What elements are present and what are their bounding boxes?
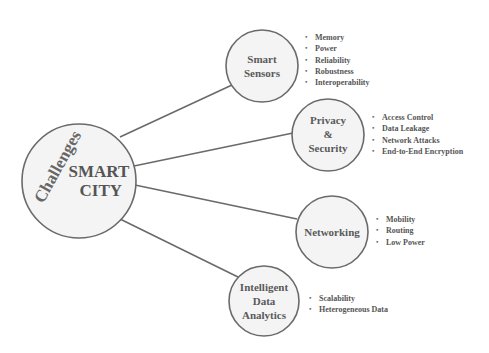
list-item: Heterogeneous Data — [309, 304, 388, 315]
node-label-line: Security — [292, 141, 364, 155]
node-label-networking: Networking — [295, 225, 369, 239]
smart-label: SMART — [68, 162, 130, 181]
smart-sensors-items: Memory Power Reliability Robustness Inte… — [305, 32, 370, 88]
list-item: Power — [305, 43, 370, 54]
node-label-line: Privacy — [292, 113, 364, 127]
node-label-intelligent-data-analytics: Intelligent Data Analytics — [228, 280, 300, 322]
list-item: Mobility — [376, 214, 425, 225]
node-label-line: Smart — [226, 52, 298, 66]
smart-city-challenges-diagram: Challenges SMART CITY Smart Sensors Memo… — [0, 0, 489, 353]
node-label-privacy-security: Privacy & Security — [292, 113, 364, 155]
node-label-line: Intelligent — [228, 280, 300, 294]
connector-networking — [135, 185, 297, 219]
intelligent-data-analytics-items: Scalability Heterogeneous Data — [309, 293, 388, 316]
list-item: End-to-End Encryption — [372, 146, 463, 157]
list-item: Interoperability — [305, 77, 370, 88]
connector-intelligent-data-analytics — [120, 219, 238, 277]
node-label-line: & — [292, 127, 364, 141]
node-label-line: Networking — [295, 225, 369, 239]
city-label: CITY — [70, 181, 122, 200]
node-label-line: Data — [228, 294, 300, 308]
list-item: Scalability — [309, 293, 388, 304]
connector-smart-sensors — [120, 85, 232, 137]
connector-privacy-security — [134, 133, 293, 166]
list-item: Network Attacks — [372, 135, 463, 146]
node-label-line: Sensors — [226, 66, 298, 80]
list-item: Access Control — [372, 112, 463, 123]
list-item: Reliability — [305, 55, 370, 66]
list-item: Routing — [376, 225, 425, 236]
node-label-smart-sensors: Smart Sensors — [226, 52, 298, 80]
list-item: Data Leakage — [372, 123, 463, 134]
node-label-line: Analytics — [228, 308, 300, 322]
list-item: Low Power — [376, 237, 425, 248]
privacy-security-items: Access Control Data Leakage Network Atta… — [372, 112, 463, 157]
networking-items: Mobility Routing Low Power — [376, 214, 425, 248]
list-item: Memory — [305, 32, 370, 43]
list-item: Robustness — [305, 66, 370, 77]
